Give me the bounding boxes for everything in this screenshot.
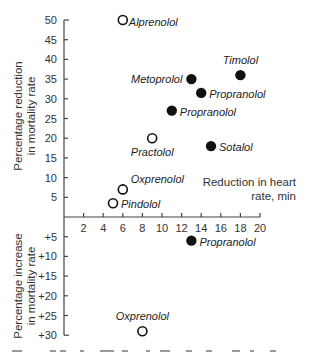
point-label-alprenolol: Alprenolol — [128, 16, 178, 28]
caption-fragment — [270, 350, 276, 352]
y-tick-label: 50 — [45, 14, 57, 26]
scatter-chart: Percentage reductionin mortality rate Pe… — [0, 0, 318, 354]
data-point-alprenolol — [118, 16, 127, 25]
data-point-propranolol — [196, 88, 206, 98]
caption-fragment — [122, 350, 128, 352]
data-point-propranolol — [167, 105, 177, 115]
y-tick-label: +5 — [44, 231, 57, 243]
point-label-propranolol: Propranolol — [199, 236, 256, 248]
point-label-pindolol: Pindolol — [121, 198, 161, 210]
point-label-oxprenolol: Oxprenolol — [131, 173, 185, 185]
caption-fragment — [160, 350, 170, 352]
caption-fragment — [12, 350, 22, 352]
data-point-practolol — [148, 134, 157, 143]
data-point-metoprolol — [186, 74, 196, 84]
y-tick-label: +30 — [38, 329, 57, 341]
data-point-timolol — [235, 70, 245, 80]
x-tick-label: 4 — [100, 222, 106, 234]
y-tick-label: 5 — [51, 191, 57, 203]
point-label-propranolol: Propranolol — [209, 88, 266, 100]
x-tick-label: 20 — [254, 222, 266, 234]
x-axis-title-line: Reduction in heart — [203, 176, 297, 188]
point-label-oxprenolol: Oxprenolol — [116, 310, 170, 322]
caption-fragment — [100, 350, 114, 352]
x-axis-title: Reduction in heartrate, min — [203, 176, 297, 202]
caption-fragment — [50, 350, 56, 352]
x-tick-label: 12 — [175, 222, 187, 234]
y-tick-label: 45 — [45, 34, 57, 46]
y-tick-label: +20 — [38, 290, 57, 302]
y-axis-title-increase: Percentage increasein mortality rate — [12, 233, 37, 338]
y-tick-label: 40 — [45, 53, 57, 65]
caption-fragment — [146, 350, 150, 352]
x-tick-label: 16 — [215, 222, 227, 234]
y-tick-label: +25 — [38, 310, 57, 322]
caption-fragment — [60, 350, 66, 352]
cropped-caption-fragment — [12, 350, 276, 352]
x-tick-label: 6 — [120, 222, 126, 234]
y-tick-label: 25 — [45, 113, 57, 125]
y-tick-label: 30 — [45, 93, 57, 105]
y-tick-label: +10 — [38, 250, 57, 262]
x-axis-title-line: rate, min — [251, 190, 296, 202]
y-axis-title-line: Percentage reduction — [12, 61, 24, 170]
caption-fragment — [250, 350, 254, 352]
x-tick-label: 10 — [156, 222, 168, 234]
y-tick-label: 35 — [45, 73, 57, 85]
point-label-timolol: Timolol — [223, 54, 259, 66]
caption-fragment — [232, 350, 240, 352]
caption-fragment — [80, 350, 84, 352]
x-tick-label: 8 — [139, 222, 145, 234]
y-tick-label: +15 — [38, 270, 57, 282]
point-label-sotalol: Sotalol — [219, 141, 253, 153]
data-point-propranolol — [186, 235, 196, 245]
data-point-oxprenolol — [118, 185, 127, 194]
y-tick-label: 15 — [45, 152, 57, 164]
caption-fragment — [186, 350, 192, 352]
caption-fragment — [206, 350, 212, 352]
x-tick-label: 14 — [195, 222, 207, 234]
x-tick-label: 18 — [234, 222, 246, 234]
y-axis-title-reduction: Percentage reductionin mortality rate — [12, 61, 37, 170]
y-tick-label: 20 — [45, 132, 57, 144]
y-axis-title-line: Percentage increase — [12, 233, 24, 338]
data-point-sotalol — [206, 141, 216, 151]
y-axis-title-line: in mortality rate — [25, 77, 37, 156]
point-label-propranolol: Propranolol — [180, 106, 237, 118]
point-label-metoprolol: Metoprolol — [131, 73, 183, 85]
x-tick-label: 2 — [81, 222, 87, 234]
y-tick-label: 10 — [45, 172, 57, 184]
data-point-pindolol — [109, 199, 118, 208]
data-point-oxprenolol — [138, 327, 147, 336]
point-label-practolol: Practolol — [131, 146, 174, 158]
y-axis-title-line: in mortality rate — [25, 247, 37, 326]
